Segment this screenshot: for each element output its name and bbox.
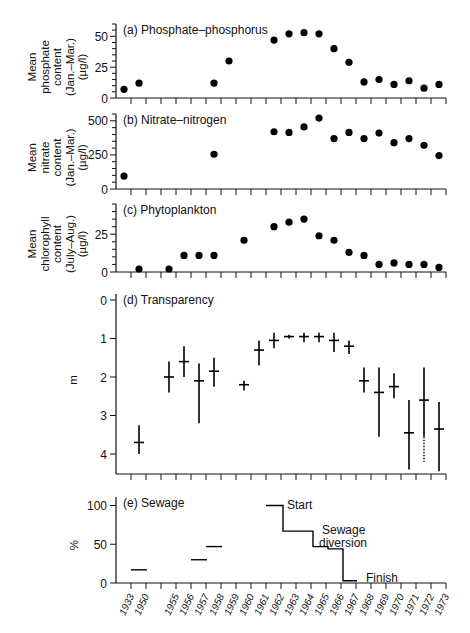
annotation-diversion: diversion — [319, 536, 367, 550]
data-point — [405, 261, 412, 268]
data-point — [330, 135, 337, 142]
error-bar — [209, 358, 219, 387]
data-point — [315, 114, 322, 121]
panel-title: (e) Sewage — [123, 496, 185, 510]
y-tick-label: 0 — [100, 577, 107, 591]
data-point — [285, 129, 292, 136]
y-axis-label: (µg/l) — [76, 144, 88, 171]
data-point — [135, 80, 142, 87]
error-bar — [254, 340, 264, 365]
data-point — [180, 252, 187, 259]
y-tick-label: 2 — [100, 371, 107, 385]
y-tick-label: 25 — [95, 61, 109, 75]
data-point — [420, 142, 427, 149]
data-point — [405, 135, 412, 142]
y-tick-label: 0 — [100, 294, 107, 308]
annotation-finish: Finish — [366, 571, 398, 585]
data-point — [345, 249, 352, 256]
error-bar — [239, 381, 249, 391]
data-point — [210, 80, 217, 87]
y-axis-label: (July–Aug.) — [64, 215, 76, 273]
panel-title: (a) Phosphate–phosphorus — [123, 23, 268, 37]
y-tick-label: 0 — [101, 266, 108, 280]
x-tick-label: 1973 — [432, 592, 452, 617]
annotation-sewage: Sewage — [322, 523, 366, 537]
panel-a: 02550(a) Phosphate–phosphorusMeanphospha… — [26, 23, 446, 106]
error-bar — [404, 400, 414, 469]
error-bar — [269, 333, 279, 348]
y-axis-label: content — [51, 224, 63, 263]
y-axis-label: m — [67, 375, 79, 385]
y-tick-label: 4 — [100, 448, 107, 462]
data-point — [375, 76, 382, 83]
y-tick-label: 500 — [88, 114, 108, 128]
panel-b: 0250500(b) Nitrate–nitrogenMeannitrateco… — [26, 113, 446, 197]
y-axis-label: (Jan.–Mar.) — [64, 38, 76, 96]
panel-title: (b) Nitrate–nitrogen — [123, 113, 226, 127]
error-bar — [164, 362, 174, 393]
y-axis-label: phosphate — [39, 40, 51, 94]
panel-c: 025(c) PhytoplanktonMeanchlorophyllconte… — [26, 203, 446, 280]
y-axis-label: (µg/l) — [76, 54, 88, 81]
data-point — [360, 135, 367, 142]
error-bar — [284, 335, 294, 339]
data-point — [345, 59, 352, 66]
data-point — [270, 128, 277, 135]
data-point — [120, 172, 127, 179]
data-point — [300, 216, 307, 223]
error-bar — [194, 364, 204, 424]
data-point — [405, 77, 412, 84]
data-point — [225, 57, 232, 64]
panel-title: (c) Phytoplankton — [123, 203, 216, 217]
error-bar — [389, 373, 399, 398]
data-point — [240, 237, 247, 244]
error-bar — [179, 346, 189, 377]
error-bar — [134, 425, 144, 454]
data-point — [375, 261, 382, 268]
y-axis-label: Mean — [26, 53, 38, 82]
y-axis-label: (µg/l) — [76, 231, 88, 258]
y-axis-label: content — [51, 138, 63, 177]
data-point — [270, 36, 277, 43]
error-bar — [359, 367, 369, 392]
y-axis-label: nitrate — [39, 142, 51, 174]
y-tick-label: 0 — [101, 183, 108, 197]
data-point — [285, 219, 292, 226]
data-point — [360, 252, 367, 259]
x-tick-label: 1950 — [132, 592, 152, 617]
panel-d: 01234(d) Transparencym — [67, 293, 446, 480]
x-axis-labels: 1933195019551956195719581959196019611962… — [117, 592, 452, 617]
y-axis-label: Mean — [26, 143, 38, 172]
error-bar — [329, 333, 339, 352]
data-point — [300, 29, 307, 36]
data-point — [420, 85, 427, 92]
data-point — [420, 261, 427, 268]
y-tick-label: 100 — [87, 499, 107, 513]
data-point — [120, 86, 127, 93]
y-axis-label: content — [51, 47, 63, 86]
data-point — [165, 265, 172, 272]
panel-e: 050100(e) Sewage%StartSewagediversionFin… — [68, 496, 446, 591]
data-point — [195, 252, 202, 259]
lake-eutrophication-figure: 02550(a) Phosphate–phosphorusMeanphospha… — [0, 0, 470, 633]
data-point — [330, 237, 337, 244]
data-point — [375, 129, 382, 136]
data-point — [360, 78, 367, 85]
y-axis-label: % — [68, 540, 80, 550]
error-bar — [434, 402, 444, 471]
data-point — [390, 81, 397, 88]
data-point — [435, 264, 442, 271]
error-bar — [344, 340, 354, 353]
data-point — [435, 152, 442, 159]
y-tick-label: 50 — [94, 538, 108, 552]
data-point — [330, 45, 337, 52]
data-point — [300, 123, 307, 130]
error-bar — [314, 333, 324, 343]
y-tick-label: 25 — [95, 228, 109, 242]
data-point — [285, 30, 292, 37]
y-axis-label: (Jan.–Mar.) — [64, 128, 76, 186]
data-point — [435, 81, 442, 88]
y-tick-label: 0 — [101, 92, 108, 106]
data-point — [390, 259, 397, 266]
annotation-start: Start — [287, 498, 313, 512]
